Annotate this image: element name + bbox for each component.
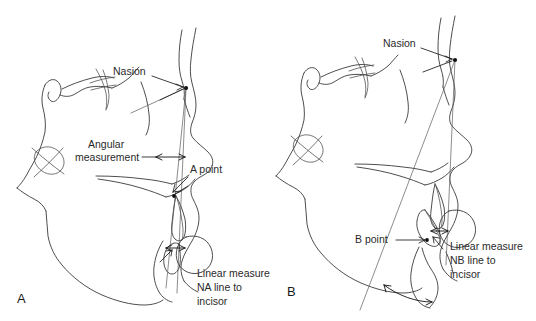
panel-a-sphenoid-outline — [60, 86, 112, 96]
panel-a-maxilla-palate-lower — [98, 179, 166, 197]
panel-a-angular-measurement-label-line2: measurement — [75, 151, 139, 163]
panel-a-sella-floor-outline — [45, 80, 61, 102]
panel-a-cranial-base-outline — [17, 85, 45, 188]
panel-a-mandible-outline — [46, 211, 163, 305]
panel-a-linear-measure-leader — [160, 250, 172, 262]
panel-b-identifier: B — [287, 284, 296, 299]
panel-b-nasion-point — [453, 58, 457, 62]
panel-a-frontal-sinus — [141, 82, 149, 135]
panel-b-condyle-ellipse — [293, 135, 323, 162]
panel-b-anterior-nasal-spine — [431, 163, 448, 172]
panel-a: Nasion Angular measurement A point Linea… — [17, 28, 270, 307]
panel-b-angular-arc-measure — [384, 285, 432, 302]
panel-b-nasion-leader-secondary — [423, 61, 452, 72]
panel-b: Nasion B point Linear measure NB line to… — [276, 16, 523, 310]
panel-a-angular-measurement-label-line1: Angular — [88, 138, 125, 150]
panel-a-maxilla-anterior — [166, 179, 195, 197]
panel-b-orbit-crosshatch-4 — [362, 58, 368, 98]
panel-b-b-point-landmark — [425, 238, 429, 242]
panel-a-posterior-ramus-outline — [17, 188, 46, 211]
panel-a-anterior-nasal-spine — [172, 175, 189, 184]
panel-b-nasion-label: Nasion — [383, 37, 416, 49]
panel-a-condyle-ellipse — [34, 147, 64, 174]
panel-a-nasion-point — [184, 86, 188, 90]
panel-a-a-point-label: A point — [190, 163, 222, 175]
panel-b-vertical-reference-line — [446, 60, 455, 265]
panel-b-posterior-ramus-outline — [276, 176, 305, 199]
panel-b-sella-floor-outline — [304, 68, 320, 90]
panel-b-sphenoid-outline — [319, 74, 371, 84]
panel-a-chin-contour — [184, 281, 198, 292]
panel-a-orbit-crosshatch-4 — [103, 70, 109, 110]
panel-b-linear-measure-label-line1: Linear measure — [450, 240, 523, 252]
panel-a-nasion-leader-secondary — [160, 89, 183, 100]
panel-b-cranial-base-outline — [276, 73, 304, 176]
panel-b-soft-tissue-forehead — [438, 18, 443, 87]
panel-b-b-point-label: B point — [355, 233, 388, 245]
panel-b-frontal-sinus — [400, 70, 408, 123]
panel-b-symphysis-outline — [422, 248, 438, 307]
panel-b-symphysis-posterior — [411, 247, 430, 308]
panel-a-linear-measure-label-line2: NA line to — [197, 281, 242, 293]
panel-a-a-point-landmark — [172, 194, 176, 198]
panel-b-maxilla-palate-lower — [357, 167, 425, 185]
panel-a-nasion-label: Nasion — [113, 65, 146, 77]
panel-b-linear-measure-label-line3: incisor — [450, 268, 481, 280]
cephalometric-figure: Nasion Angular measurement A point Linea… — [0, 0, 536, 321]
panel-a-linear-measure-label-line1: Linear measure — [197, 267, 270, 279]
panel-a-linear-measure-label-line3: incisor — [197, 295, 228, 307]
panel-b-linear-measure-label-line2: NB line to — [450, 254, 496, 266]
panel-a-identifier: A — [17, 291, 26, 306]
panel-b-mandible-outline — [305, 199, 422, 293]
